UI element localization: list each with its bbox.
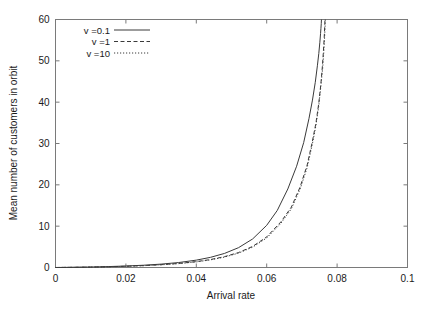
legend-label: v =1 (92, 36, 110, 47)
x-tick-label: 0.06 (257, 273, 277, 284)
x-tick-label: 0.08 (327, 273, 347, 284)
x-axis-title: Arrival rate (207, 290, 256, 301)
y-tick-label: 10 (38, 221, 50, 232)
y-tick-label: 40 (38, 97, 50, 108)
legend: v =0.1v =1v =10 (84, 25, 150, 59)
x-tick-label: 0 (53, 273, 59, 284)
legend-label: v =10 (86, 48, 110, 59)
x-tick-label: 0.1 (401, 273, 415, 284)
y-tick-label: 0 (44, 262, 50, 273)
y-axis-title: Mean number of customers in orbit (8, 66, 19, 221)
x-axis-tick-labels: 00.020.040.060.080.1 (53, 273, 415, 284)
legend-label: v =0.1 (84, 25, 110, 36)
y-tick-label: 30 (38, 138, 50, 149)
x-tick-label: 0.04 (187, 273, 207, 284)
y-tick-label: 20 (38, 179, 50, 190)
y-axis-tick-labels: 0102030405060 (38, 14, 50, 273)
line-chart-svg: 00.020.040.060.080.1 0102030405060 Arriv… (0, 0, 432, 313)
y-tick-label: 60 (38, 14, 50, 25)
chart-figure: 00.020.040.060.080.1 0102030405060 Arriv… (0, 0, 432, 313)
x-tick-label: 0.02 (116, 273, 136, 284)
y-tick-label: 50 (38, 55, 50, 66)
